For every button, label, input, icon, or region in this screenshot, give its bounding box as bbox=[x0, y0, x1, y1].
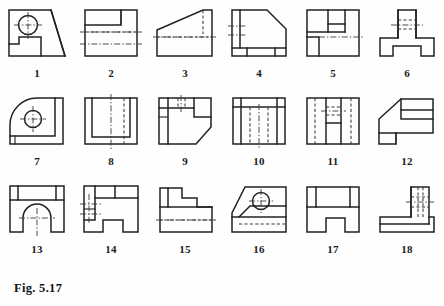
view-item: 13 bbox=[0, 180, 74, 268]
view-item: 14 bbox=[74, 180, 148, 268]
view-drawing-4 bbox=[223, 4, 295, 66]
view-number: 6 bbox=[404, 67, 410, 79]
view-drawing-5 bbox=[297, 4, 369, 66]
view-drawing-6 bbox=[371, 4, 443, 66]
view-item: 4 bbox=[222, 4, 296, 92]
view-item: 3 bbox=[148, 4, 222, 92]
view-item: 7 bbox=[0, 92, 74, 180]
view-item: 1 bbox=[0, 4, 74, 92]
view-number: 2 bbox=[108, 67, 114, 79]
view-drawing-17 bbox=[297, 180, 369, 242]
view-drawing-11 bbox=[297, 92, 369, 154]
view-item: 6 bbox=[370, 4, 444, 92]
view-item: 11 bbox=[296, 92, 370, 180]
view-item: 10 bbox=[222, 92, 296, 180]
view-drawing-9 bbox=[149, 92, 221, 154]
view-item: 8 bbox=[74, 92, 148, 180]
view-number: 4 bbox=[256, 67, 262, 79]
view-drawing-10 bbox=[223, 92, 295, 154]
figure-caption: Fig. 5.17 bbox=[14, 281, 62, 296]
view-item: 17 bbox=[296, 180, 370, 268]
view-drawing-3 bbox=[149, 4, 221, 66]
view-drawing-15 bbox=[149, 180, 221, 242]
view-item: 15 bbox=[148, 180, 222, 268]
views-grid: 1 2 3 bbox=[0, 4, 444, 268]
view-drawing-13 bbox=[1, 180, 73, 242]
view-number: 17 bbox=[327, 243, 338, 255]
view-number: 7 bbox=[34, 155, 40, 167]
view-drawing-7 bbox=[1, 92, 73, 154]
view-drawing-1 bbox=[1, 4, 73, 66]
view-drawing-2 bbox=[75, 4, 147, 66]
view-item: 5 bbox=[296, 4, 370, 92]
view-item: 16 bbox=[222, 180, 296, 268]
view-number: 3 bbox=[182, 67, 188, 79]
view-item: 2 bbox=[74, 4, 148, 92]
view-number: 12 bbox=[401, 155, 412, 167]
view-item: 18 bbox=[370, 180, 444, 268]
view-item: 12 bbox=[370, 92, 444, 180]
view-number: 9 bbox=[182, 155, 188, 167]
view-drawing-8 bbox=[75, 92, 147, 154]
view-drawing-16 bbox=[223, 180, 295, 242]
view-number: 1 bbox=[34, 67, 40, 79]
view-drawing-12 bbox=[371, 92, 443, 154]
view-number: 18 bbox=[401, 243, 412, 255]
view-number: 8 bbox=[108, 155, 114, 167]
view-number: 14 bbox=[105, 243, 116, 255]
view-number: 10 bbox=[253, 155, 264, 167]
view-drawing-18 bbox=[371, 180, 443, 242]
view-number: 11 bbox=[328, 155, 339, 167]
view-number: 16 bbox=[253, 243, 264, 255]
view-drawing-14 bbox=[75, 180, 147, 242]
view-number: 13 bbox=[31, 243, 42, 255]
view-number: 5 bbox=[330, 67, 336, 79]
view-number: 15 bbox=[179, 243, 190, 255]
view-item: 9 bbox=[148, 92, 222, 180]
figure-plate: 1 2 3 bbox=[0, 0, 444, 306]
